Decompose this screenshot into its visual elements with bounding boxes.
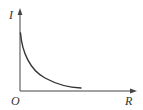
- x-axis-arrow-icon: [130, 89, 137, 94]
- x-axis-label: R: [125, 95, 132, 107]
- y-axis-arrow-icon: [18, 8, 23, 15]
- chart-figure: [0, 0, 143, 110]
- y-axis-label: I: [9, 9, 13, 21]
- origin-label: O: [11, 95, 20, 107]
- inverse-curve: [21, 33, 82, 88]
